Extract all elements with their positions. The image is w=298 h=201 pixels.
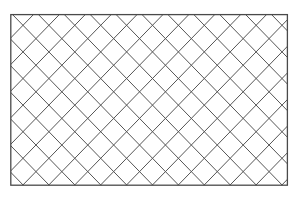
crosshatch-diagram	[0, 0, 298, 201]
